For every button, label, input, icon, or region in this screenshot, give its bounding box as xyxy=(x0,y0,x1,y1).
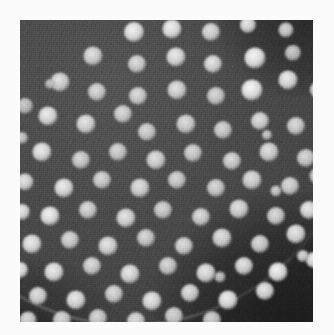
film-grain-overlay-fine xyxy=(20,20,313,322)
micrograph-plate xyxy=(20,20,313,322)
micrograph-figure xyxy=(0,0,334,335)
